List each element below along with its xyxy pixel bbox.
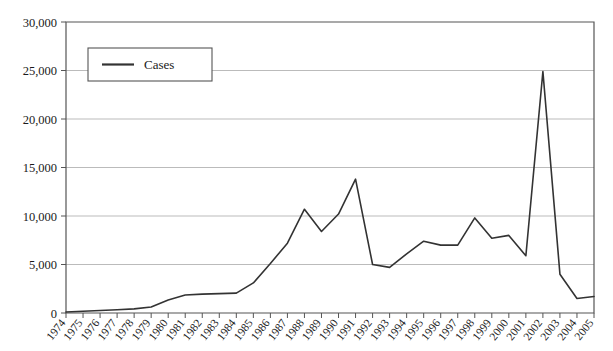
line-chart: 05,00010,00015,00020,00025,00030,000 197… [0,0,613,351]
y-tick-label-15000: 15,000 [23,161,57,175]
gridline-group [66,71,594,265]
chart-canvas: 05,00010,00015,00020,00025,00030,000 197… [0,0,613,351]
y-tick-label-5000: 5,000 [29,258,57,272]
y-tick-label-25000: 25,000 [23,64,57,78]
y-axis-tick-labels: 05,00010,00015,00020,00025,00030,000 [23,16,66,321]
y-tick-label-20000: 20,000 [23,113,57,127]
data-series-group [66,71,594,312]
chart-legend[interactable]: Cases [88,48,212,81]
y-tick-label-30000: 30,000 [23,16,57,30]
x-tick-label-2005: 2005 [572,317,596,343]
x-axis-tick-labels: 1974197519761977197819791980198119821983… [44,317,596,343]
series-line-cases [66,71,594,312]
legend-label-cases: Cases [144,57,174,72]
y-tick-label-10000: 10,000 [23,210,57,224]
